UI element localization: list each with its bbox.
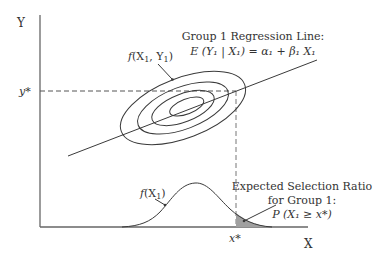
joint-density-label: f(X1, Y1): [127, 50, 173, 64]
label-part: ): [161, 187, 165, 200]
marginal-density-label: f(X1): [139, 187, 166, 201]
label-part: , Y: [149, 50, 164, 63]
label-part: ): [169, 50, 173, 63]
regression-line: [68, 60, 317, 156]
y-star-label: y*: [18, 85, 31, 98]
selection-ratio-pointer-head: [243, 220, 246, 223]
joint-density-pointer-head: [171, 78, 174, 81]
y-axis-label: Y: [16, 16, 26, 30]
regression-equation: E (Y₁ | X₁) = α₁ + β₁ X₁: [189, 45, 316, 59]
label-part: (X: [144, 187, 156, 200]
x-star-label: x*: [229, 232, 241, 245]
joint-density-pointer: [158, 64, 172, 79]
marginal-density-pointer-head: [164, 204, 167, 207]
contour-3: [131, 71, 236, 145]
selection-line1: Expected Selection Ratio: [232, 180, 373, 193]
selection-diagram: Y X y* x* f(X1, Y1) Group 1 Regression L…: [0, 0, 381, 260]
label-part: (X: [132, 50, 144, 63]
selection-line3: P (X₁ ≥ x*): [271, 208, 332, 221]
shaded-tail-area: [236, 213, 270, 227]
x-axis-label: X: [304, 237, 313, 251]
selection-line2: for Group 1:: [268, 194, 336, 207]
regression-title: Group 1 Regression Line:: [182, 30, 325, 43]
joint-density-contours: [111, 56, 256, 159]
contour-outer: [111, 56, 256, 159]
